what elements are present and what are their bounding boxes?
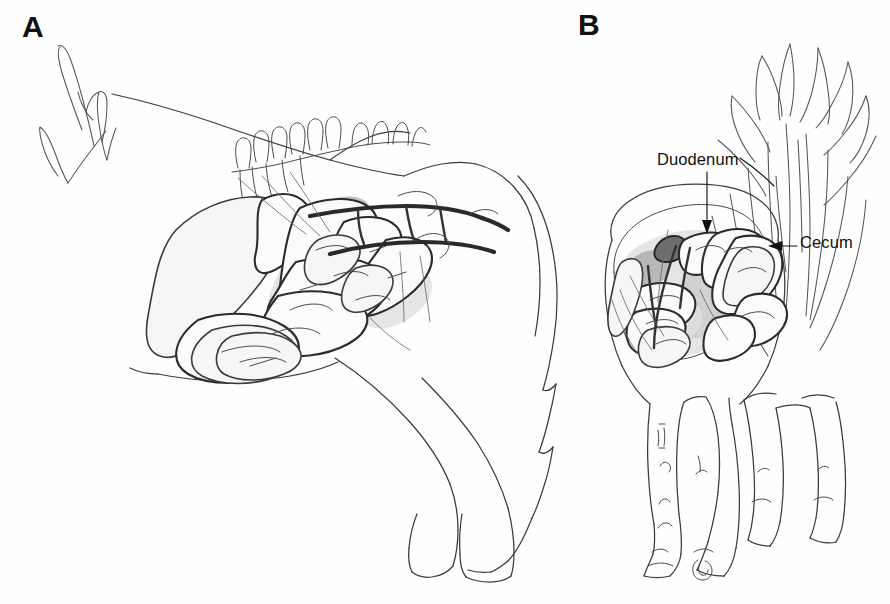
duodenum-leader [702, 158, 774, 234]
panel-b-letter: B [578, 10, 600, 40]
panel-a-letter: A [22, 12, 44, 42]
figure-root: A B Duodenum Cecum [0, 0, 890, 604]
cecum-label: Cecum [800, 233, 853, 251]
panel-b-artwork [0, 0, 890, 604]
duodenum-label: Duodenum [657, 150, 739, 168]
leg-markings-b [648, 424, 833, 580]
